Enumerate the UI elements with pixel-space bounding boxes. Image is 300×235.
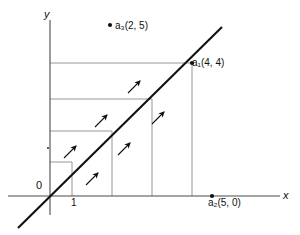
x-axis-label: x — [283, 190, 289, 201]
origin-label: 0 — [36, 180, 42, 191]
diagram-canvas — [0, 0, 300, 235]
reference-tick-dot — [47, 147, 49, 149]
x-tick-label-1: 1 — [71, 198, 77, 208]
coordinate-diagram: y x 0 1 a₃(2, 5) a₁(4, 4) a₂(5, 0) — [0, 0, 300, 235]
vertical-level-lines — [72, 63, 192, 196]
point-marker-a3[interactable] — [108, 23, 112, 27]
direction-arrow-icon — [64, 146, 76, 158]
point-label-a3: a₃(2, 5) — [115, 21, 148, 31]
point-label-a2: a₂(5, 0) — [208, 198, 241, 208]
y-axis-label: y — [44, 9, 50, 20]
direction-arrow-icon — [128, 81, 140, 93]
direction-arrow-icon — [118, 143, 130, 155]
direction-arrow-icon — [95, 115, 107, 127]
direction-arrow-icon — [152, 112, 164, 124]
direction-arrow-icon — [86, 173, 98, 185]
point-label-a1: a₁(4, 4) — [192, 58, 224, 68]
